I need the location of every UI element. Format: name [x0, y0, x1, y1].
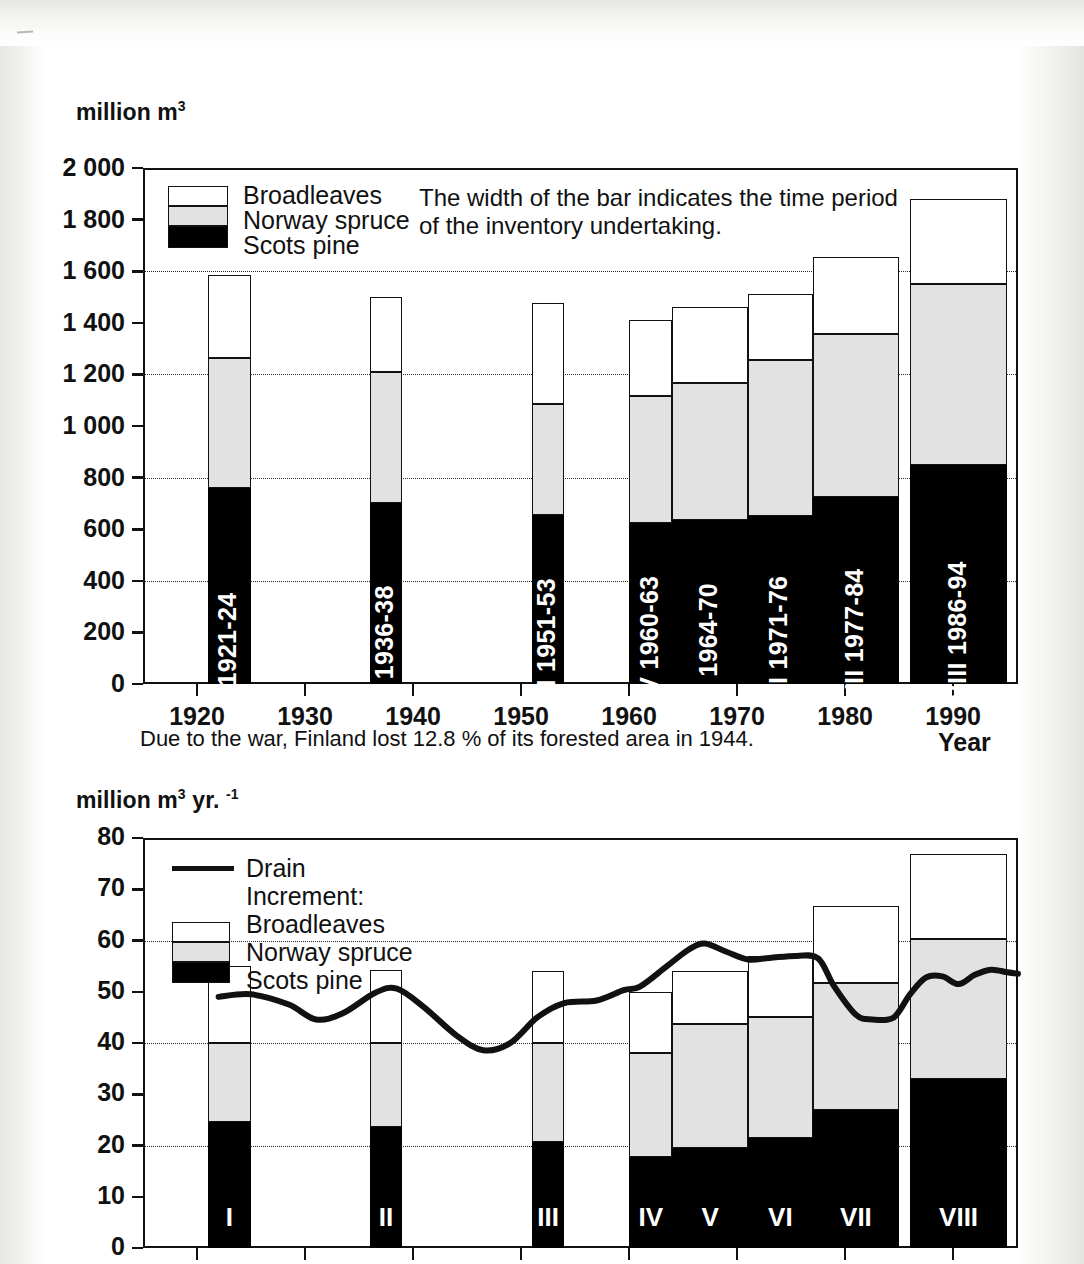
- chart1-bar-segment-norway-spruce: [532, 404, 564, 515]
- chart2-y-tickmark: [132, 939, 143, 942]
- chart1-x-axis-title: Year: [938, 728, 991, 757]
- chart2-legend-swatch-norway-spruce: [172, 942, 230, 962]
- chart2-bar-segment-scots-pine: [672, 1148, 748, 1248]
- chart1-bar-segment-broadleaves: [813, 257, 899, 334]
- chart2-bar-segment-broadleaves: [813, 906, 899, 983]
- chart1-y-tick-label: 400: [0, 568, 125, 593]
- chart1-x-tickmark: [196, 684, 199, 696]
- chart1-y-tickmark: [132, 270, 143, 273]
- chart2-bar-segment-broadleaves: [748, 956, 813, 1018]
- chart2-bar-segment-broadleaves: [370, 970, 402, 1043]
- chart1-y-tick-label: 2 000: [0, 155, 125, 180]
- chart2-y-tickmark: [132, 1247, 143, 1250]
- chart1-x-tickmark: [304, 684, 307, 696]
- chart2-bar-label: V: [672, 1202, 748, 1233]
- chart1-bar-segment-broadleaves: [208, 275, 251, 358]
- chart1-bar-segment-norway-spruce: [370, 372, 402, 504]
- chart1-caption: Due to the war, Finland lost 12.8 % of i…: [140, 726, 754, 752]
- chart2-legend-label-increment: Increment:: [246, 883, 364, 909]
- chart1-x-tickmark: [628, 684, 631, 696]
- chart1-bar-label: V 1964-70: [694, 583, 723, 701]
- chart2-y-tickmark: [132, 837, 143, 840]
- chart2-x-tickmark: [844, 1248, 847, 1260]
- chart1-y-tick-label: 1 000: [0, 413, 125, 438]
- chart2-y-tick-label: 50: [0, 978, 125, 1003]
- chart2-y-tickmark: [132, 888, 143, 891]
- chart2-y-tickmark: [132, 1093, 143, 1096]
- chart1-x-tick-label: 1980: [785, 704, 905, 729]
- chart2-x-tickmark: [520, 1248, 523, 1260]
- chart1-bar-label: VII 1977-84: [840, 568, 869, 701]
- chart1-bar-segment-broadleaves: [748, 294, 813, 360]
- chart1-y-tickmark: [132, 631, 143, 634]
- chart1-y-tickmark: [132, 425, 143, 428]
- chart2-y-tickmark: [132, 1042, 143, 1045]
- chart2-y-axis-unit: million m3 yr. -1: [76, 786, 239, 814]
- chart2-legend-swatch-scots-pine: [172, 962, 230, 983]
- chart2-bar-label: IV: [629, 1202, 672, 1233]
- chart2-y-tick-label: 30: [0, 1080, 125, 1105]
- chart1-y-tickmark: [132, 528, 143, 531]
- figure-content: million m3 2 0001 8001 6001 4001 2001 00…: [0, 0, 1084, 1264]
- chart2-bar-label: III: [532, 1202, 564, 1233]
- chart1-y-tick-label: 1 600: [0, 258, 125, 283]
- chart1-x-tickmark: [520, 684, 523, 696]
- chart1-y-tick-label: 1 200: [0, 361, 125, 386]
- chart2-bar-segment-norway-spruce: [629, 1053, 672, 1157]
- chart1-x-tick-label: 1990: [893, 704, 1013, 729]
- chart2-bar-label: VII: [813, 1202, 899, 1233]
- chart2-bar-segment-norway-spruce: [370, 1043, 402, 1127]
- chart1-legend-label-scots-pine: Scots pine: [243, 232, 360, 258]
- chart2-legend-label-drain: Drain: [246, 855, 306, 881]
- chart2-y-tick-label: 80: [0, 824, 125, 849]
- chart2-bar-label: VI: [748, 1202, 813, 1233]
- chart2-bar-segment-norway-spruce: [208, 1043, 251, 1122]
- chart1-y-tick-label: 800: [0, 465, 125, 490]
- chart1-bar-segment-broadleaves: [370, 297, 402, 372]
- chart1-y-axis-unit: million m3: [76, 98, 186, 126]
- chart2-y-tick-label: 60: [0, 927, 125, 952]
- chart1-legend-swatch-broadleaves: [168, 186, 228, 206]
- chart2-legend-label-norway-spruce: Norway spruce: [246, 939, 413, 965]
- chart2-bar-segment-norway-spruce: [910, 939, 1007, 1079]
- chart2-x-tickmark: [196, 1248, 199, 1260]
- chart1-y-tickmark: [132, 218, 143, 221]
- chart2-bar-label: I: [208, 1202, 251, 1233]
- chart1-bar-segment-norway-spruce: [672, 383, 748, 520]
- chart2-bar-label: VIII: [910, 1202, 1007, 1233]
- chart1-x-tickmark: [736, 684, 739, 696]
- chart2-y-tickmark: [132, 1196, 143, 1199]
- chart2-y-tick-label: 0: [0, 1234, 125, 1259]
- chart1-bar-segment-broadleaves: [672, 307, 748, 383]
- chart1-legend-swatch-norway-spruce: [168, 206, 228, 226]
- chart1-bar-segment-norway-spruce: [910, 284, 1007, 465]
- chart1-y-tickmark: [132, 476, 143, 479]
- chart2-bar-segment-broadleaves: [532, 971, 564, 1043]
- chart1-note-line-1: The width of the bar indicates the time …: [419, 183, 898, 212]
- chart2-y-tickmark: [132, 991, 143, 994]
- chart2-x-tickmark: [736, 1248, 739, 1260]
- chart2-y-tick-label: 70: [0, 875, 125, 900]
- chart1-y-tick-label: 600: [0, 516, 125, 541]
- chart1-y-tickmark: [132, 322, 143, 325]
- chart2-legend-label-scots-pine: Scots pine: [246, 967, 363, 993]
- chart2-bar-segment-norway-spruce: [748, 1017, 813, 1137]
- chart2-legend-line-drain: [172, 866, 234, 871]
- chart2-bar-segment-norway-spruce: [532, 1043, 564, 1142]
- chart1-y-tick-label: 1 800: [0, 207, 125, 232]
- chart1-bar-segment-broadleaves: [910, 199, 1007, 284]
- chart1-legend-label-broadleaves: Broadleaves: [243, 182, 382, 208]
- chart1-bar-label: II 1936-38: [370, 585, 399, 701]
- chart1-bar-label: VIII 1986-94: [943, 561, 972, 701]
- chart2-bar-segment-norway-spruce: [813, 983, 899, 1110]
- chart1-note-line-2: of the inventory undertaking.: [419, 211, 722, 240]
- chart1-bar-label: VI 1971-76: [764, 576, 793, 701]
- chart1-bar-label: I 1921-24: [213, 593, 242, 701]
- chart2-x-tickmark: [412, 1248, 415, 1260]
- chart2-y-tick-label: 20: [0, 1132, 125, 1157]
- chart1-bar-segment-norway-spruce: [748, 360, 813, 516]
- chart1-bar-label: IV 1960-63: [635, 576, 664, 701]
- chart1-bar-label: III 1951-53: [532, 578, 561, 701]
- chart1-legend-label-norway-spruce: Norway spruce: [243, 207, 410, 233]
- chart2-x-tickmark: [304, 1248, 307, 1260]
